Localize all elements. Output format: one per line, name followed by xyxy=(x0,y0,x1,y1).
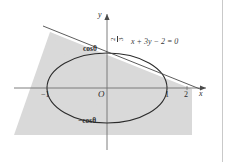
x-axis-label: x xyxy=(199,90,203,98)
math-figure: x y O −1 1 2 2 3 cosθ −cosθ x + 3y − 2 =… xyxy=(0,0,230,162)
tick-label-two: 2 xyxy=(184,91,188,99)
y-axis-arrow xyxy=(104,14,109,20)
lower-cos-theta-label: −cosθ xyxy=(78,117,96,125)
line-equation-label: x + 3y − 2 = 0 xyxy=(131,38,178,46)
upper-cos-theta-label: cosθ xyxy=(83,45,97,53)
origin-label: O xyxy=(98,90,105,99)
fraction-denominator: 3 xyxy=(118,37,125,43)
y-axis-label: y xyxy=(98,11,102,19)
tick-label-two-thirds: 2 3 xyxy=(110,37,126,43)
coordinate-plot xyxy=(0,0,230,162)
panel-divider xyxy=(222,0,223,162)
tick-label-minus-one: −1 xyxy=(41,91,50,99)
tick-label-one: 1 xyxy=(165,91,169,99)
